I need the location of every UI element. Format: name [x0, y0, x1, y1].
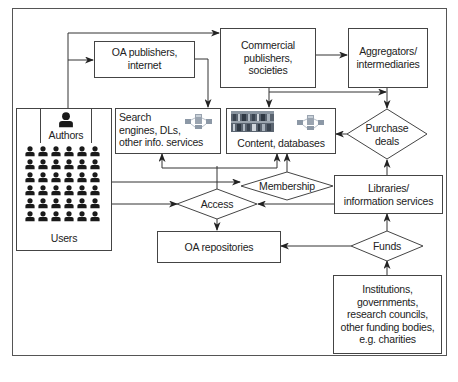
- search-line2: engines, DLs,: [119, 124, 219, 137]
- edge-oa-publishers-search: [194, 59, 208, 107]
- authors-label: Authors: [41, 129, 91, 142]
- edge-access-search: [162, 154, 217, 168]
- libraries-label: Libraries/ information services: [334, 182, 443, 207]
- aggregators-line2: intermediaries: [348, 58, 428, 71]
- commercial-line3: societies: [220, 64, 316, 77]
- aggregators-label: Aggregators/ intermediaries: [348, 45, 428, 70]
- search-line1: Search: [119, 111, 219, 124]
- aggregators-line1: Aggregators/: [348, 45, 428, 58]
- libraries-line2: information services: [334, 195, 443, 208]
- funds-label: Funds: [351, 240, 423, 253]
- bookshelf-image: [231, 111, 274, 132]
- institutions-line4: other funding bodies,: [333, 321, 442, 334]
- users-label: Users: [16, 232, 112, 245]
- oa-publishers-line2: internet: [94, 59, 195, 72]
- content-databases-label: Content, databases: [226, 137, 336, 150]
- purchase-line2: deals: [347, 135, 427, 148]
- commercial-line1: Commercial: [220, 39, 316, 52]
- scholarly-communication-diagram: OA publishers, internet Commercial publi…: [0, 0, 458, 382]
- libraries-line1: Libraries/: [334, 182, 443, 195]
- institutions-line1: Institutions,: [333, 283, 442, 296]
- purchase-deals-label: Purchase deals: [347, 122, 427, 147]
- commercial-line2: publishers,: [220, 52, 316, 65]
- purchase-line1: Purchase: [347, 122, 427, 135]
- membership-label: Membership: [241, 180, 333, 193]
- edge-access-content: [217, 154, 277, 168]
- commercial-publishers-label: Commercial publishers, societies: [220, 39, 316, 77]
- institutions-line3: research councils,: [333, 308, 442, 321]
- oa-publishers-line1: OA publishers,: [94, 46, 195, 59]
- search-line3: other info. services: [119, 136, 219, 149]
- oa-repositories-label: OA repositories: [157, 241, 281, 254]
- institutions-line2: governments,: [333, 296, 442, 309]
- institutions-line5: e.g. charities: [333, 333, 442, 346]
- access-label: Access: [177, 198, 257, 211]
- oa-publishers-label: OA publishers, internet: [94, 46, 195, 71]
- institutions-label: Institutions, governments, research coun…: [333, 283, 442, 346]
- search-engines-label: Search engines, DLs, other info. service…: [119, 111, 219, 149]
